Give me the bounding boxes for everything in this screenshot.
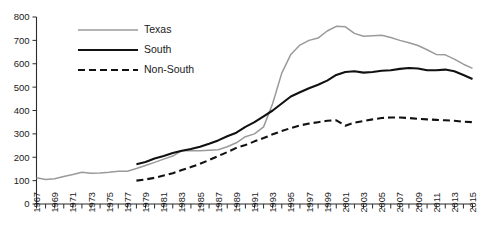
x-tick-label: 1971 — [68, 192, 78, 212]
x-tick-label: 2011 — [432, 193, 442, 213]
legend-label-texas: Texas — [144, 23, 171, 35]
line-chart: 0100200300400500600700800 19671969197119… — [0, 0, 489, 250]
y-tick-label: 800 — [14, 11, 30, 22]
x-tick-label: 1967 — [32, 192, 42, 212]
x-tick-label: 1993 — [268, 192, 278, 212]
x-axis: 1967196919711973197519771979198119831985… — [32, 192, 478, 212]
x-tick-label: 1979 — [141, 192, 151, 212]
x-tick-label: 1991 — [250, 192, 260, 212]
x-tick-label: 1977 — [123, 192, 133, 212]
chart-legend: TexasSouthNon-South — [78, 23, 194, 75]
x-tick-label: 1975 — [105, 192, 115, 212]
y-axis: 0100200300400500600700800 — [14, 11, 37, 209]
x-tick-label: 2009 — [414, 192, 424, 212]
legend-label-non-south: Non-South — [144, 63, 194, 75]
x-tick-label: 2003 — [359, 192, 369, 212]
x-tick-label: 2013 — [450, 192, 460, 212]
chart-plot-area: 0100200300400500600700800 19671969197119… — [0, 0, 489, 250]
x-tick-label: 1989 — [232, 192, 242, 212]
x-tick-label: 2005 — [377, 192, 387, 212]
x-tick-label: 2015 — [468, 192, 478, 212]
y-tick-label: 200 — [14, 152, 30, 163]
x-tick-label: 1981 — [159, 192, 169, 212]
series-line-south — [136, 68, 472, 164]
x-tick-label: 1985 — [196, 192, 206, 212]
y-tick-label: 600 — [14, 58, 30, 69]
x-tick-label: 1995 — [286, 192, 296, 212]
y-tick-label: 100 — [14, 175, 30, 186]
x-tick-label: 2007 — [395, 192, 405, 212]
x-tick-label: 1987 — [214, 192, 224, 212]
y-tick-label: 700 — [14, 35, 30, 46]
y-tick-label: 400 — [14, 105, 30, 116]
x-tick-label: 2001 — [341, 192, 351, 212]
legend-label-south: South — [144, 43, 172, 55]
y-tick-label: 500 — [14, 82, 30, 93]
y-tick-label: 0 — [24, 198, 29, 209]
y-tick-label: 300 — [14, 128, 30, 139]
x-tick-label: 1969 — [50, 192, 60, 212]
x-tick-label: 1983 — [177, 192, 187, 212]
x-tick-label: 1997 — [305, 192, 315, 212]
x-tick-label: 1999 — [323, 192, 333, 212]
x-tick-label: 1973 — [87, 192, 97, 212]
